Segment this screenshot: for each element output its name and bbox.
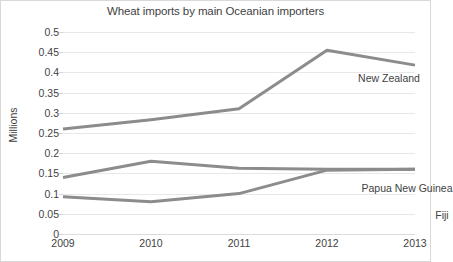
y-axis-tick-label: 0.4: [7, 66, 59, 78]
y-axis-tick-label: 0.35: [7, 87, 59, 99]
y-axis-tick-label: 0.5: [7, 26, 59, 38]
line-chart: Wheat imports by main Oceanian importers…: [1, 1, 430, 261]
x-axis-tick-label: 2012: [315, 237, 338, 249]
gridline: [63, 234, 415, 235]
series-lines: [63, 32, 415, 234]
chart-title: Wheat imports by main Oceanian importers: [1, 5, 430, 17]
series-line-new-zealand: [63, 50, 415, 129]
series-label-fiji: Fiji: [435, 209, 448, 221]
y-axis-tick-label: 0.15: [7, 167, 59, 179]
series-label-new-zealand: New Zealand: [358, 72, 420, 84]
y-axis-tick-label: 0.45: [7, 46, 59, 58]
plot-area: New Zealand Papua New Guinea Fiji: [63, 32, 415, 234]
x-axis-tick-labels: 20092010201120122013: [63, 237, 415, 257]
y-axis-tick-label: 0.1: [7, 188, 59, 200]
y-axis-tick-label: 0.25: [7, 127, 59, 139]
y-axis-tick-label: 0.3: [7, 107, 59, 119]
y-axis-tick-label: 0.2: [7, 147, 59, 159]
series-label-papua-new-guinea: Papua New Guinea: [361, 182, 452, 194]
x-axis-tick-label: 2009: [51, 237, 74, 249]
y-axis-tick-labels: 0.50.450.40.350.30.250.20.150.10.050: [3, 32, 59, 234]
y-axis-tick: [59, 234, 63, 235]
x-axis-tick-label: 2011: [228, 237, 251, 249]
y-axis-tick-label: 0.05: [7, 208, 59, 220]
x-axis-tick-label: 2013: [403, 237, 426, 249]
x-axis-tick-label: 2010: [139, 237, 162, 249]
